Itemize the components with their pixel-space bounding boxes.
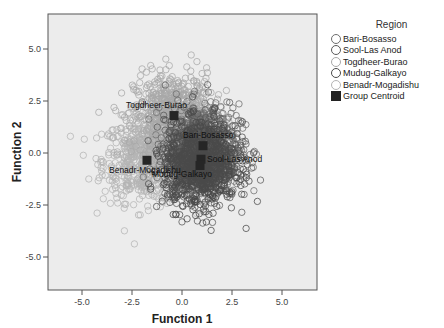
centroid-label: Togdheer-Burao [126, 100, 187, 110]
y-tick-label: 0.0 [28, 148, 41, 158]
y-tick-label: -5.0 [25, 252, 41, 262]
legend-item: Sool-Las Anod [331, 45, 444, 57]
centroid-label: Bari-Bosasso [183, 130, 234, 140]
x-tick-label: 2.5 [226, 297, 239, 307]
circle-marker-icon [331, 45, 341, 55]
y-axis-title: Function 2 [10, 121, 24, 182]
centroid-marker [170, 111, 179, 120]
legend-item: Benadr-Mogadishu [331, 79, 444, 91]
legend-title: Region [339, 19, 444, 30]
x-tick-label: -5.0 [74, 297, 90, 307]
circle-marker-icon [331, 68, 341, 78]
legend-label: Sool-Las Anod [343, 45, 402, 55]
legend-label: Benadr-Mogadishu [343, 80, 419, 90]
centroid-label: Sool-Las Anod [207, 154, 263, 164]
circle-marker-icon [331, 80, 341, 90]
legend-label: Bari-Bosasso [343, 34, 397, 44]
legend-label: Mudug-Galkayo [343, 68, 407, 78]
centroid-label: Mudug-Galkayo [152, 169, 212, 179]
centroid-marker [199, 141, 208, 150]
circle-marker-icon [331, 34, 341, 44]
legend-item: Mudug-Galkayo [331, 68, 444, 80]
x-axis: -5.0-2.50.02.55.0 [74, 290, 288, 307]
y-axis: 5.02.50.0-2.5-5.0 [25, 44, 48, 262]
x-tick-label: 5.0 [276, 297, 289, 307]
y-tick-label: 2.5 [28, 96, 41, 106]
y-tick-label: 5.0 [28, 44, 41, 54]
x-axis-title: Function 1 [152, 312, 213, 326]
legend-item: Bari-Bosasso [331, 33, 444, 45]
legend-item: Togdheer-Burao [331, 56, 444, 68]
y-tick-label: -2.5 [25, 200, 41, 210]
centroid-marker [143, 156, 152, 165]
legend-label: Group Centroid [343, 91, 405, 101]
legend-label: Togdheer-Burao [343, 57, 408, 67]
legend: Region Bari-BosassoSool-Las AnodTogdheer… [331, 19, 444, 102]
x-tick-label: -2.5 [124, 297, 140, 307]
x-tick-label: 0.0 [176, 297, 189, 307]
legend-item-centroid: Group Centroid [331, 91, 444, 103]
circle-marker-icon [331, 57, 341, 67]
square-marker-icon [331, 91, 341, 101]
